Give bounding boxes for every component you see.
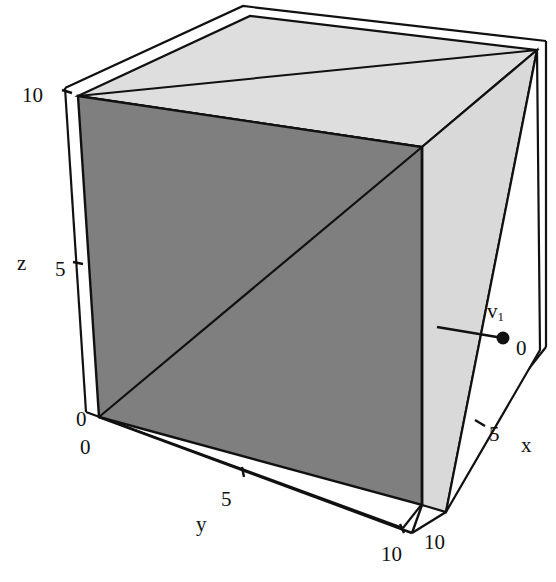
x-axis-label: x (521, 435, 532, 456)
v1-label-subscript: 1 (498, 309, 505, 324)
figure-canvas: 10 5 0 z 0 5 10 y 0 5 10 x v1 (0, 0, 556, 582)
y-tick-label-5: 5 (221, 489, 232, 510)
v1-point-label: v1 (487, 301, 504, 323)
x-tick-label-0: 0 (516, 338, 527, 359)
x-tick-label-10: 10 (424, 532, 445, 553)
y-tick-5 (242, 467, 244, 477)
cube-3d-plot (0, 0, 556, 582)
z-tick-label-10: 10 (22, 85, 43, 106)
z-tick-5 (73, 262, 83, 264)
z-tick-label-0: 0 (76, 409, 87, 430)
y-axis-label: y (196, 514, 207, 535)
x-tick-label-5: 5 (489, 424, 500, 445)
y-tick-label-10: 10 (381, 544, 402, 565)
z-tick-label-5: 5 (55, 259, 66, 280)
front-face-dark (78, 96, 422, 505)
y-tick-label-0: 0 (80, 437, 91, 458)
v1-point-marker[interactable] (497, 332, 510, 345)
z-tick-10 (62, 90, 72, 93)
z-axis-label: z (17, 253, 26, 274)
v1-label-base: v (487, 299, 498, 323)
